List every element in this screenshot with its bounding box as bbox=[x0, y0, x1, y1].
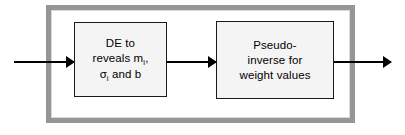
de-block-line-3-suffix: and b bbox=[109, 68, 142, 80]
de-block-line-2-text: reveals m bbox=[93, 52, 144, 64]
de-block-line-3: σi and b bbox=[100, 67, 142, 83]
output-arrow-head bbox=[383, 56, 392, 68]
pseudo-inverse-block-line-2: inverse for bbox=[248, 53, 303, 68]
sigma-symbol: σ bbox=[100, 68, 107, 80]
pseudo-inverse-block: Pseudo- inverse for weight values bbox=[216, 21, 334, 99]
de-block-line-2: reveals mi, bbox=[93, 51, 149, 67]
de-block-line-3-subscript: i bbox=[107, 74, 109, 83]
input-arrow-shaft bbox=[14, 61, 74, 63]
pseudo-inverse-block-line-3: weight values bbox=[240, 68, 311, 83]
de-block: DE to reveals mi, σi and b bbox=[74, 22, 167, 97]
de-block-line-2-suffix: , bbox=[145, 52, 148, 64]
de-block-line-2-subscript: i bbox=[143, 58, 145, 67]
de-block-line-1: DE to bbox=[106, 36, 135, 51]
pseudo-inverse-block-line-1: Pseudo- bbox=[253, 38, 297, 53]
diagram-canvas: DE to reveals mi, σi and b Pseudo- inver… bbox=[0, 0, 405, 135]
